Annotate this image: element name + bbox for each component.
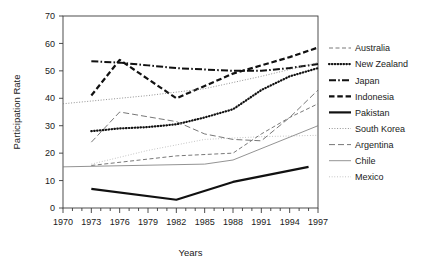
line-chart: 0102030405060701970197319761979198219851… <box>0 0 446 273</box>
x-axis-tick-label: 1991 <box>251 217 271 227</box>
y-axis-tick-label: 20 <box>45 148 55 158</box>
x-axis-tick-label: 1973 <box>81 217 101 227</box>
x-axis-tick-label: 1985 <box>195 217 215 227</box>
y-axis-tick-label: 50 <box>45 66 55 76</box>
legend-label-mexico: Mexico <box>355 172 384 182</box>
y-axis-title: Participation Rate <box>11 75 22 150</box>
y-axis-tick-label: 40 <box>45 93 55 103</box>
series-line-indonesia <box>91 48 318 99</box>
legend-label-pakistan: Pakistan <box>355 108 390 118</box>
y-axis-tick-label: 70 <box>45 11 55 21</box>
legend-label-japan: Japan <box>355 76 380 86</box>
x-axis-tick-label: 1988 <box>223 217 243 227</box>
y-axis-tick-label: 10 <box>45 176 55 186</box>
x-axis-tick-label: 1994 <box>280 217 300 227</box>
x-axis-title: Years <box>179 247 203 258</box>
x-axis-tick-label: 1970 <box>53 217 73 227</box>
x-axis-tick-label: 1997 <box>308 217 328 227</box>
legend-label-australia: Australia <box>355 43 390 53</box>
legend-label-indonesia: Indonesia <box>355 92 394 102</box>
y-axis-tick-label: 60 <box>45 39 55 49</box>
plot-frame <box>63 16 318 208</box>
series-line-pakistan <box>91 167 308 200</box>
chart-figure: 0102030405060701970197319761979198219851… <box>0 0 446 273</box>
legend-label-argentina: Argentina <box>355 140 394 150</box>
legend-label-south-korea: South Korea <box>355 124 405 134</box>
legend-label-new-zealand: New Zealand <box>355 59 408 69</box>
y-axis-tick-label: 30 <box>45 121 55 131</box>
x-axis-tick-label: 1982 <box>166 217 186 227</box>
x-axis-tick-label: 1979 <box>138 217 158 227</box>
legend-label-chile: Chile <box>355 156 376 166</box>
y-axis-tick-label: 0 <box>50 203 55 213</box>
x-axis-tick-label: 1976 <box>110 217 130 227</box>
